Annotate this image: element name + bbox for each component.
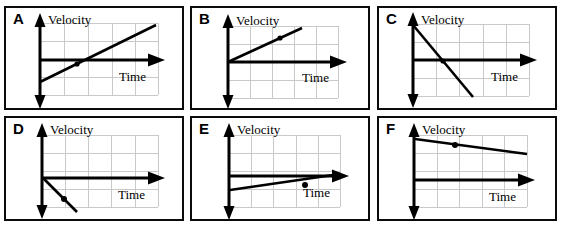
figure-sheet: A	[0, 0, 563, 227]
time-label: Time	[303, 185, 330, 200]
velocity-label: Velocity	[237, 122, 281, 137]
time-label: Time	[489, 189, 516, 204]
time-axis	[413, 54, 537, 67]
velocity-label: Velocity	[422, 122, 466, 137]
time-axis	[228, 56, 347, 69]
panel-a-plot: Velocity Time	[6, 8, 182, 108]
time-label: Time	[491, 69, 518, 84]
panel-f: F	[377, 116, 557, 221]
velocity-label: Velocity	[50, 122, 94, 137]
panel-b-plot: Velocity Time	[192, 8, 368, 108]
panel-e: E	[190, 116, 370, 221]
velocity-label: Velocity	[236, 13, 280, 28]
time-label: Time	[119, 69, 146, 84]
panel-c-plot: Velocity Time	[379, 8, 555, 108]
panel-e-plot: Velocity Time	[192, 118, 368, 219]
panel-d: D	[4, 116, 184, 221]
velocity-label: Velocity	[48, 12, 92, 27]
panel-c: C	[377, 6, 557, 110]
velocity-label: Velocity	[421, 12, 465, 27]
panel-d-plot: Velocity Time	[6, 118, 182, 219]
data-line-b	[228, 28, 302, 62]
time-label: Time	[118, 187, 145, 202]
data-line-f	[415, 139, 527, 154]
time-axis	[42, 172, 165, 185]
time-label: Time	[302, 70, 329, 85]
panel-a: A	[4, 6, 184, 110]
panel-f-plot: Velocity Time	[379, 118, 555, 219]
time-axis	[40, 54, 165, 67]
time-axis	[414, 174, 535, 187]
panel-b: B	[190, 6, 370, 110]
